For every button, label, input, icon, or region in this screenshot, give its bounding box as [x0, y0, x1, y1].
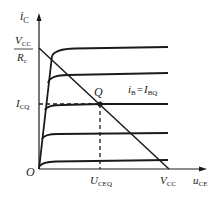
- output-characteristics-diagram: iC VCC Rc ICQ O UCEQ VCC uCE Q iB=IBQ: [0, 0, 217, 199]
- characteristic-curves: [40, 47, 168, 166]
- uceq-label: UCEQ: [90, 174, 112, 188]
- origin-label: O: [26, 165, 35, 179]
- y-axis-label: iC: [20, 9, 29, 25]
- curve-1: [52, 47, 168, 56]
- saturation-line: [39, 56, 52, 169]
- q-guides: [39, 104, 100, 169]
- y-axis-arrow-icon: [37, 13, 42, 21]
- vcc-rc-numerator: VCC: [15, 34, 31, 48]
- curve-label: iB=IBQ: [128, 83, 157, 97]
- curve-4: [42, 133, 168, 139]
- x-axis-arrow-icon: [199, 167, 207, 172]
- vcc-rc-denominator: Rc: [16, 51, 27, 65]
- curve-2: [48, 73, 168, 83]
- icq-label: ICQ: [15, 97, 29, 111]
- q-point: [97, 101, 102, 106]
- axes: [39, 18, 202, 169]
- curve-3: [45, 104, 168, 110]
- load-line: [39, 48, 169, 169]
- curve-5: [40, 160, 168, 166]
- vcc-label: VCC: [160, 174, 176, 188]
- q-label: Q: [94, 85, 103, 99]
- x-axis-label: uCE: [193, 174, 207, 188]
